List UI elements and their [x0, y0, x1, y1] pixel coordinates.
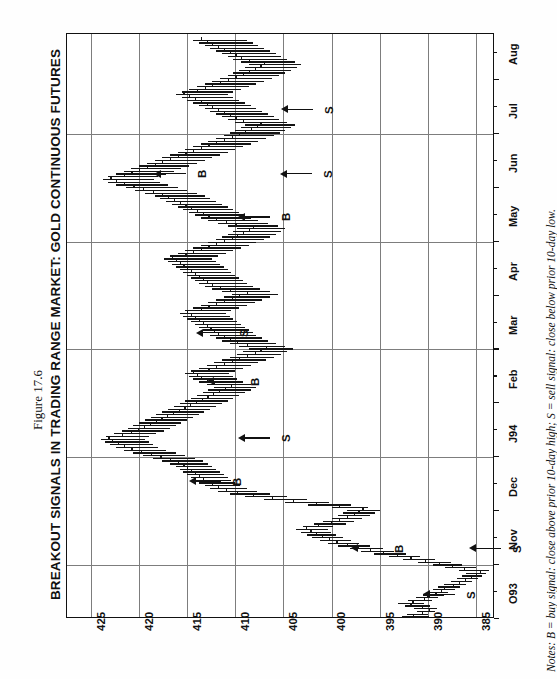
signal-label: B	[231, 477, 243, 485]
ohlc-bar	[208, 242, 256, 243]
ohlc-bar	[224, 296, 270, 297]
ohlc-bar	[405, 605, 430, 606]
ohlc-bar	[218, 491, 257, 492]
ohlc-bar	[162, 157, 212, 158]
figure-title-block: Figure 17.6 BREAKOUT SIGNALS IN TRADING …	[0, 0, 62, 640]
month-tick	[494, 429, 497, 430]
price-gridline	[332, 34, 333, 617]
ohlc-bar	[201, 143, 251, 144]
ohlc-bar	[296, 529, 328, 530]
month-tick	[494, 483, 497, 484]
ohlc-close-tick	[201, 37, 202, 40]
month-tick	[494, 456, 499, 457]
signal-label: B	[249, 377, 261, 385]
price-tick-label: 395	[384, 612, 396, 631]
ohlc-bar	[308, 504, 350, 505]
month-tick-label: Mar	[507, 315, 519, 335]
ohlc-bar	[110, 444, 152, 445]
ohlc-bar	[230, 357, 274, 358]
price-tick-label: 405	[287, 612, 299, 631]
ohlc-bar	[176, 466, 213, 467]
signal-arrow-stem	[287, 109, 313, 110]
month-tick	[494, 106, 497, 107]
ohlc-bar	[438, 586, 460, 587]
ohlc-bar	[139, 165, 189, 166]
month-tick-label: Dec	[507, 476, 519, 496]
ohlc-bar	[457, 578, 478, 579]
month-tick	[494, 214, 497, 215]
ohlc-bar	[245, 67, 297, 68]
figure-page: Figure 17.6 BREAKOUT SIGNALS IN TRADING …	[0, 0, 557, 679]
ohlc-bar	[193, 247, 241, 248]
ohlc-bar	[101, 439, 145, 440]
signal-arrow-stem	[202, 332, 228, 333]
ohlc-bar	[332, 507, 369, 508]
ohlc-bar	[249, 348, 293, 349]
ohlc-bar	[407, 614, 428, 615]
month-tick	[494, 268, 497, 269]
ohlc-bar	[466, 573, 486, 574]
signal-arrow-head	[351, 544, 358, 552]
ohlc-bar	[193, 146, 243, 147]
ohlc-bar	[162, 411, 204, 412]
month-tick	[494, 402, 499, 403]
ohlc-bar	[151, 417, 193, 418]
ohlc-bar	[220, 78, 272, 79]
ohlc-bar	[187, 474, 224, 475]
month-tick-label: Feb	[507, 369, 519, 389]
ohlc-bar	[414, 608, 437, 609]
signal-arrow-head	[423, 590, 430, 598]
price-gridline	[139, 34, 140, 617]
ohlc-bar	[170, 255, 218, 256]
ohlc-bar	[239, 70, 291, 71]
signal-label: B	[280, 213, 292, 221]
ohlc-bar	[374, 553, 407, 554]
month-tick	[494, 79, 499, 80]
ohlc-bar	[116, 447, 158, 448]
month-tick-label: Jul	[507, 103, 519, 119]
ohlc-bar	[451, 581, 472, 582]
price-tick-label: 390	[432, 612, 444, 631]
ohlc-bar	[193, 307, 239, 308]
ohlc-bar	[178, 152, 228, 153]
price-gridline	[91, 34, 92, 617]
signal-arrow-head	[281, 105, 288, 113]
ohlc-bar	[191, 398, 233, 399]
ohlc-bar	[182, 91, 234, 92]
signal-arrow-head	[207, 377, 214, 385]
ohlc-bar	[143, 455, 185, 456]
month-tick-label: Apr	[507, 262, 519, 281]
month-tick	[494, 322, 497, 323]
figure-notes: Notes: B = buy signal: close above prior…	[545, 209, 557, 672]
ohlc-bar	[162, 460, 202, 461]
month-tick-label: May	[507, 206, 519, 227]
ohlc-bar	[462, 575, 482, 576]
ohlc-bar	[408, 600, 432, 601]
signal-arrow-stem	[244, 216, 270, 217]
ohlc-bar	[205, 83, 257, 84]
ohlc-bar	[228, 75, 280, 76]
price-gridline	[428, 34, 429, 617]
ohlc-bar	[139, 422, 181, 423]
month-tick	[494, 618, 499, 619]
ohlc-bar	[201, 305, 247, 306]
signal-label: S	[511, 545, 523, 553]
ohlc-bar	[389, 556, 420, 557]
ohlc-bar	[237, 354, 281, 355]
ohlc-bar	[235, 130, 285, 131]
ohlc-bar	[230, 132, 280, 133]
ohlc-bar	[185, 373, 229, 374]
month-tick	[494, 187, 499, 188]
month-tick	[494, 348, 499, 349]
ohlc-bar	[133, 452, 175, 453]
time-gridline	[67, 565, 493, 566]
chart-plot-area	[66, 33, 494, 618]
time-gridline	[67, 134, 493, 135]
ohlc-bar	[320, 540, 351, 541]
ohlc-bar	[403, 559, 436, 560]
ohlc-bar	[361, 551, 394, 552]
ohlc-bar	[232, 294, 278, 295]
signal-label: S	[322, 171, 334, 179]
month-tick	[494, 52, 497, 53]
figure-number: Figure 17.6	[30, 370, 46, 430]
